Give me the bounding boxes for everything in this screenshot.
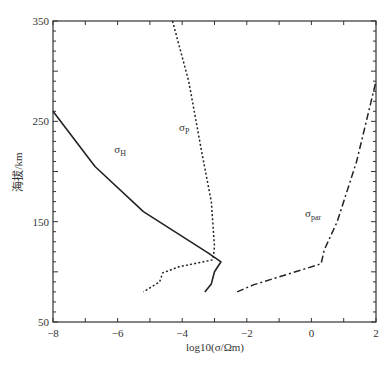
x-tick-label: −2 (241, 327, 253, 339)
chart: −8−6−4−20250150250350 σHσPσpar log10(σ/Ω… (0, 0, 392, 365)
x-axis-label: log10(σ/Ωm) (186, 341, 244, 354)
y-tick-label: 250 (33, 115, 50, 127)
y-axis-label: 海拔/km (11, 152, 24, 192)
curve-labels: σHσPσpar (114, 121, 321, 221)
curve-label: σpar (305, 207, 321, 222)
x-tick-label: −4 (176, 327, 188, 339)
x-tick-label: −8 (47, 327, 59, 339)
series-line (237, 81, 376, 292)
y-tick-label: 150 (33, 216, 50, 228)
x-tick-label: 2 (373, 327, 379, 339)
series-group (53, 21, 376, 292)
y-tick-label: 50 (38, 316, 50, 328)
curve-label: σP (179, 121, 190, 136)
curve-label: σH (114, 143, 126, 158)
x-tick-label: −6 (112, 327, 124, 339)
y-tick-label: 350 (33, 15, 50, 27)
x-tick-label: 0 (309, 327, 315, 339)
series-line (143, 21, 214, 292)
series-line (53, 111, 221, 292)
